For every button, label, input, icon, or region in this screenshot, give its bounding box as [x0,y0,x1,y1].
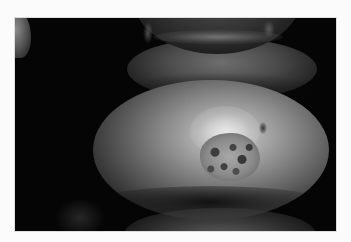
hair-shadow [55,198,105,231]
lip-corner-right [263,20,275,38]
clinical-photo [15,18,336,231]
lip-corner-left [143,22,153,44]
skin-lesion [200,133,260,181]
ear-edge [15,18,31,58]
lesion-satellite [259,122,267,134]
